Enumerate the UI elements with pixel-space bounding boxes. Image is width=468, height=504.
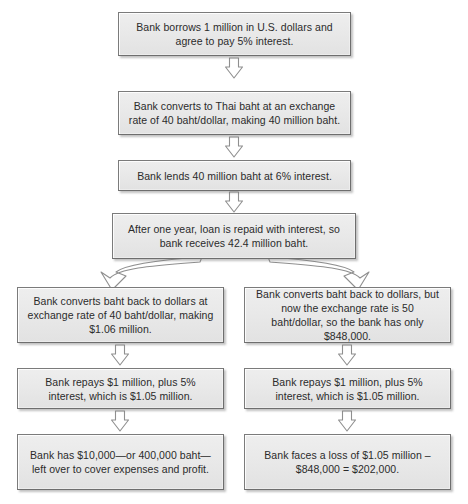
arrow-repaid-to-right-convert — [268, 257, 369, 290]
node-right-loss-result: Bank faces a loss of $1.05 million – $84… — [244, 434, 451, 490]
node-right-loss-result-label: Bank faces a loss of $1.05 million – $84… — [254, 448, 441, 476]
node-left-repays-loan-label: Bank repays $1 million, plus 5% interest… — [27, 375, 214, 403]
node-bank-converts-to-baht: Bank converts to Thai baht at an exchang… — [118, 91, 351, 135]
node-right-repays-loan: Bank repays $1 million, plus 5% interest… — [244, 368, 451, 409]
node-bank-converts-to-baht-label: Bank converts to Thai baht at an exchang… — [128, 99, 341, 127]
node-right-repays-loan-label: Bank repays $1 million, plus 5% interest… — [254, 375, 441, 403]
node-bank-borrows: Bank borrows 1 million in U.S. dollars a… — [118, 12, 351, 56]
node-bank-lends-baht: Bank lends 40 million baht at 6% interes… — [118, 160, 351, 191]
node-bank-borrows-label: Bank borrows 1 million in U.S. dollars a… — [128, 20, 341, 48]
node-left-profit-result-label: Bank has $10,000—or 400,000 baht—left ov… — [27, 448, 214, 476]
arrow-lend-to-repaid — [226, 192, 243, 212]
node-bank-lends-baht-label: Bank lends 40 million baht at 6% interes… — [128, 169, 341, 183]
node-right-converts-back-label: Bank converts baht back to dollars, but … — [254, 287, 441, 343]
node-left-repays-loan: Bank repays $1 million, plus 5% interest… — [17, 368, 224, 409]
node-loan-repaid: After one year, loan is repaid with inte… — [112, 213, 356, 259]
arrow-borrow-to-convert — [226, 58, 243, 78]
arrow-right-repay-to-result — [339, 411, 356, 431]
node-left-converts-back: Bank converts baht back to dollars at ex… — [17, 287, 224, 343]
arrow-left-repay-to-result — [112, 411, 129, 431]
node-right-converts-back: Bank converts baht back to dollars, but … — [244, 287, 451, 343]
arrow-repaid-to-left-convert — [101, 257, 202, 290]
arrow-right-convert-to-repay — [339, 345, 356, 365]
node-left-profit-result: Bank has $10,000—or 400,000 baht—left ov… — [17, 434, 224, 490]
arrow-convert-to-lend — [226, 137, 243, 157]
flowchart-diagram: Bank borrows 1 million in U.S. dollars a… — [0, 0, 468, 504]
node-left-converts-back-label: Bank converts baht back to dollars at ex… — [27, 294, 214, 336]
node-loan-repaid-label: After one year, loan is repaid with inte… — [122, 222, 346, 250]
arrow-left-convert-to-repay — [112, 345, 129, 365]
